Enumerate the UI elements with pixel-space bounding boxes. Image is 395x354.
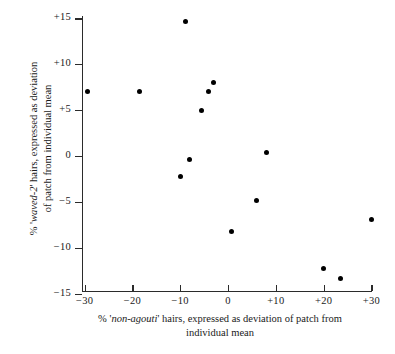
x-tick-mark xyxy=(132,285,133,291)
data-point xyxy=(183,19,188,24)
scatter-plot-figure: −15−10−50+5+10+15 −30−20−100+10+20+30 % … xyxy=(0,0,395,354)
x-axis-title: % 'non-agouti' hairs, expressed as devia… xyxy=(60,312,380,340)
data-point xyxy=(206,89,211,94)
x-tick-mark xyxy=(371,285,372,291)
data-point xyxy=(321,266,326,271)
y-tick-mark xyxy=(75,156,82,157)
x-tick-mark xyxy=(228,285,229,291)
x-tick-mark xyxy=(180,285,181,291)
data-point xyxy=(229,229,234,234)
data-point xyxy=(178,174,183,179)
y-tick-mark xyxy=(75,64,82,65)
y-axis-title-prefix: % ' xyxy=(28,222,39,235)
x-axis-title-line2: individual mean xyxy=(186,327,254,338)
data-point xyxy=(338,276,343,281)
data-point xyxy=(85,89,90,94)
x-axis-line xyxy=(82,291,372,292)
data-point xyxy=(137,89,142,94)
y-axis-title-line2: of patch from individual mean xyxy=(41,85,52,213)
y-tick-mark xyxy=(75,248,82,249)
data-point xyxy=(264,150,269,155)
y-axis-line xyxy=(82,16,83,292)
x-axis-title-suffix: ' hairs, expressed as deviation of patch… xyxy=(157,313,341,324)
x-tick-label: +30 xyxy=(341,295,395,306)
y-axis-title-suffix: ' hairs, expressed as deviation xyxy=(28,62,39,187)
data-point xyxy=(211,80,216,85)
y-axis-title-gene: waved-2 xyxy=(28,186,39,222)
y-tick-mark xyxy=(75,202,82,203)
x-tick-mark xyxy=(324,285,325,291)
data-point xyxy=(254,198,259,203)
data-point xyxy=(187,157,192,162)
x-tick-mark xyxy=(276,285,277,291)
data-point xyxy=(199,108,204,113)
data-point xyxy=(369,217,374,222)
y-tick-mark xyxy=(75,18,82,19)
y-tick-mark xyxy=(75,110,82,111)
x-axis-title-prefix: % ' xyxy=(98,313,111,324)
x-axis-title-gene: non-agouti xyxy=(111,313,157,324)
x-tick-mark xyxy=(85,285,86,291)
y-axis-title: % 'waved-2' hairs, expressed as deviatio… xyxy=(27,13,54,285)
